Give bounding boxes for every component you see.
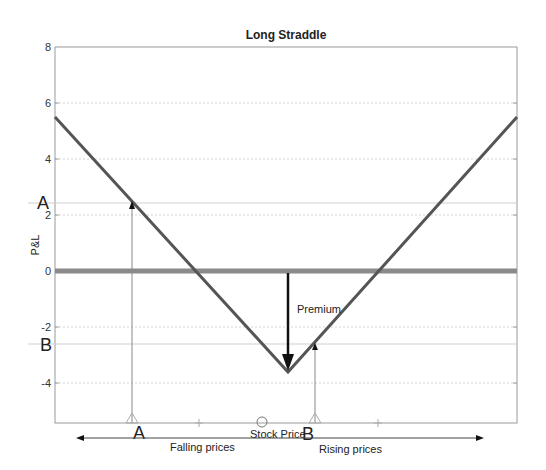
y-tick-minus-2: -2 [41, 321, 51, 333]
y-tick-8: 8 [45, 41, 51, 53]
long-straddle-chart: Long Straddle 8 6 4 2 0 -2 -4 P&L A B [0, 0, 546, 470]
y-tick-4: 4 [45, 153, 51, 165]
payoff-line [55, 117, 517, 372]
y-tick-0: 0 [45, 265, 51, 277]
label-a-bottom: A [133, 423, 145, 443]
right-arrowhead-icon [476, 435, 484, 441]
rising-prices-label: Rising prices [319, 443, 382, 455]
chart-title: Long Straddle [246, 28, 327, 42]
label-b-bottom: B [302, 424, 314, 444]
label-a-left: A [37, 193, 49, 213]
gridlines [55, 103, 517, 383]
y-tick-minus-4: -4 [41, 377, 51, 389]
falling-prices-label: Falling prices [170, 441, 235, 453]
label-b-left: B [40, 335, 52, 355]
circle-marker-icon [257, 417, 267, 427]
left-arrowhead-icon [76, 435, 84, 441]
premium-label: Premium [297, 303, 341, 315]
y-axis-label: P&L [29, 235, 41, 256]
y-tick-6: 6 [45, 97, 51, 109]
